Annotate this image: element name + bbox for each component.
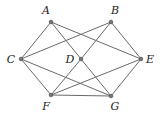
edge-a-c: [21, 22, 51, 59]
node-a: [49, 20, 53, 24]
node-b: [109, 20, 113, 24]
edge-b-e: [111, 22, 141, 59]
node-g: [109, 94, 113, 98]
node-label-d: D: [65, 53, 75, 66]
graph-diagram: ABCDEFG: [0, 0, 160, 114]
node-label-g: G: [111, 100, 120, 113]
node-label-f: F: [41, 100, 50, 113]
node-label-e: E: [145, 53, 154, 66]
node-e: [139, 57, 143, 61]
nodes-layer: [19, 20, 143, 98]
edge-b-d: [81, 22, 111, 59]
node-c: [19, 57, 23, 61]
node-label-a: A: [41, 4, 50, 17]
node-label-c: C: [7, 53, 16, 66]
node-f: [49, 93, 53, 97]
node-d: [79, 57, 83, 61]
edge-f-g: [51, 95, 111, 96]
node-label-b: B: [110, 4, 119, 17]
edge-c-f: [21, 59, 51, 95]
